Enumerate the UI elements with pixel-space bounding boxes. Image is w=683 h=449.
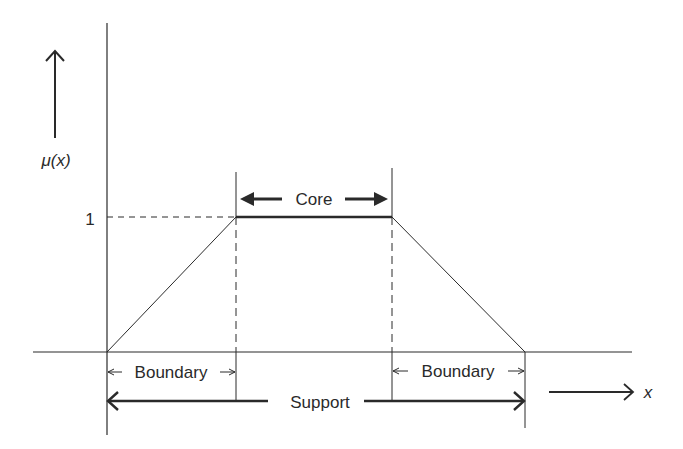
x-arrow-icon xyxy=(549,384,633,400)
x-axis-label: x xyxy=(643,383,653,402)
boundary-right-label: Boundary xyxy=(422,362,495,381)
support-label: Support xyxy=(290,393,350,412)
rising-edge xyxy=(107,217,236,352)
mu-arrow-icon xyxy=(46,51,64,138)
y-axis-label: μ(x) xyxy=(40,151,70,170)
support-right-arrow-icon xyxy=(364,392,524,410)
boundary-left-label: Boundary xyxy=(135,363,208,382)
membership-diagram: μ(x) 1 Core Boundary Boundary Support xyxy=(0,0,683,449)
core-left-arrow-icon xyxy=(240,192,282,206)
falling-edge xyxy=(392,217,525,352)
y-tick-one: 1 xyxy=(85,210,94,229)
core-label: Core xyxy=(296,190,333,209)
support-left-arrow-icon xyxy=(108,392,268,410)
core-right-arrow-icon xyxy=(345,192,388,206)
